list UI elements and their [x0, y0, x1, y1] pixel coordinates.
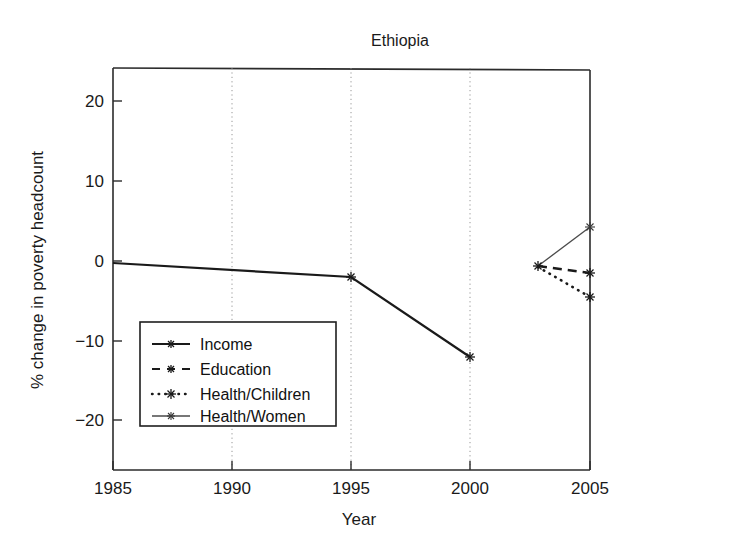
xtick-label-2000: 2000: [451, 479, 489, 498]
legend-marker-education: [167, 365, 175, 373]
ytick-label-20: 20: [85, 92, 104, 111]
chart-title: Ethiopia: [371, 32, 429, 49]
legend-label-health-women: Health/Women: [200, 408, 306, 425]
xtick-label-1985: 1985: [94, 479, 132, 498]
legend-marker-income: [167, 340, 175, 348]
series-income-marker-1995: [346, 272, 356, 282]
y-axis-title: % change in poverty headcount: [28, 151, 47, 389]
xtick-label-1990: 1990: [213, 479, 251, 498]
ytick-label-10: 10: [85, 172, 104, 191]
legend-label-education: Education: [200, 361, 271, 378]
xtick-label-2005: 2005: [571, 479, 609, 498]
chart-legend[interactable]: Income Education: [140, 322, 336, 426]
series-income-marker-2000: [465, 352, 475, 362]
xtick-label-1995: 1995: [332, 479, 370, 498]
legend-marker-health-children: [166, 389, 176, 399]
ytick-label-neg20: −20: [75, 411, 104, 430]
legend-label-income: Income: [200, 336, 253, 353]
chart-figure: Ethiopia 20 10 0 −10 −20: [0, 0, 733, 550]
series-cluster-marker-2000: [533, 261, 543, 271]
figure-background: [0, 0, 733, 550]
chart-svg: Ethiopia 20 10 0 −10 −20: [0, 0, 733, 550]
legend-marker-health-women: [167, 412, 175, 420]
x-axis-title: Year: [342, 510, 377, 529]
legend-label-health-children: Health/Children: [200, 386, 310, 403]
series-health-children-marker-2005: [585, 292, 595, 302]
series-education-marker-2005: [585, 268, 595, 278]
ytick-label-neg10: −10: [75, 332, 104, 351]
series-health-women-marker-2005: [585, 222, 595, 232]
ytick-label-0: 0: [95, 252, 104, 271]
